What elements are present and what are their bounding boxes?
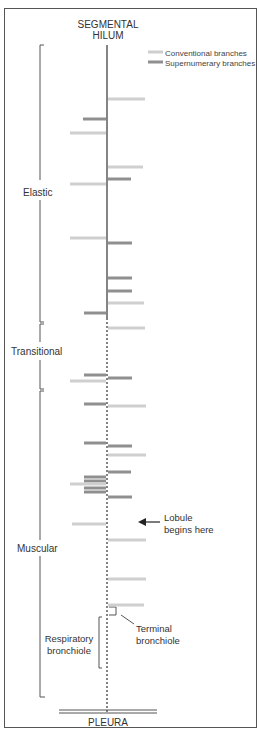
respiratory-bracket	[99, 617, 102, 668]
zone-label-muscular: Muscular	[16, 542, 59, 555]
elastic-bracket	[40, 45, 44, 180]
annotation-terminal-2: bronchiole	[136, 634, 180, 647]
legend-supernumerary-label: Supernumerary branches	[165, 57, 255, 70]
branch-group	[70, 99, 146, 605]
zone-label-transitional: Transitional	[10, 345, 63, 358]
terminal-pointer-line	[121, 615, 134, 624]
zone-label-elastic: Elastic	[22, 186, 53, 199]
title-hilum: HILUM	[77, 29, 139, 42]
terminal-bracket	[109, 607, 116, 615]
airway-diagram	[0, 0, 261, 732]
zone-label-respiratory-2: bronchiole	[40, 644, 98, 657]
annotation-lobule-2: begins here	[164, 523, 214, 536]
pleura-label: PLEURA	[78, 716, 138, 729]
lobule-arrow-head	[138, 518, 146, 526]
